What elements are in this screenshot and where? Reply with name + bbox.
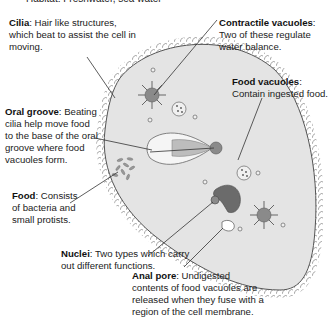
label-food-vacuoles-term: Food vacuoles <box>232 76 299 87</box>
label-food-vacuoles-desc: Contain ingested food. <box>232 88 328 99</box>
label-contractile-vacuoles-term: Contractile vacuoles <box>219 17 313 28</box>
label-contractile-vacuoles-desc: Two of these regulate water balance. <box>219 29 311 52</box>
label-anal-pore-term: Anal pore <box>132 270 176 281</box>
label-food-vacuoles: Food vacuoles: Contain ingested food. <box>232 76 329 100</box>
label-oral-groove: Oral groove: Beating cilia help move foo… <box>5 106 100 166</box>
label-cilia-term: Cilia <box>9 17 29 28</box>
contractile-vacuole-bottom <box>250 201 278 229</box>
anal-pore-shape <box>222 220 234 231</box>
label-cilia: Cilia: Hair like structures, which beat … <box>9 17 139 53</box>
label-food: Food: Consists of bacteria and small pro… <box>12 190 87 226</box>
label-oral-groove-term: Oral groove <box>5 106 59 117</box>
label-cilia-desc: Hair like structures, which beat to assi… <box>9 17 136 52</box>
label-food-term: Food <box>12 190 35 201</box>
label-contractile-vacuoles: Contractile vacuoles: Two of these regul… <box>219 17 324 53</box>
label-nuclei-term: Nuclei <box>61 248 90 259</box>
label-nuclei: Nuclei: Two types which carry out differ… <box>61 248 201 272</box>
label-anal-pore: Anal pore: Undigested contents of food v… <box>132 270 267 318</box>
